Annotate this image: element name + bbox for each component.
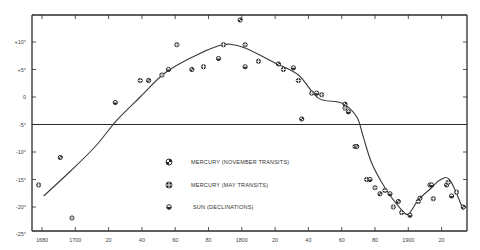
y-tick-label: -5° <box>19 122 26 128</box>
legend-label: MERCURY (NOVEMBER TRANSITS) <box>191 159 289 165</box>
data-point <box>113 100 117 104</box>
data-point <box>160 73 164 77</box>
data-point <box>221 43 225 47</box>
y-tick-label: -20° <box>16 204 26 210</box>
y-tick-label: -15° <box>16 177 26 183</box>
legend-marker-icon <box>166 182 172 188</box>
data-point <box>388 192 392 196</box>
legend: MERCURY (NOVEMBER TRANSITS)MERCURY (MAY … <box>166 159 289 210</box>
trend-curve <box>44 44 464 214</box>
data-point <box>256 59 260 63</box>
data-point <box>449 194 453 198</box>
x-tick-label: 80 <box>205 237 211 243</box>
data-point <box>296 78 300 82</box>
y-tick-label: 0 <box>23 94 26 100</box>
x-tick-label: 1900 <box>402 237 414 243</box>
legend-label: MERCURY (MAY TRANSITS) <box>191 182 268 188</box>
data-point <box>281 67 285 71</box>
declination-chart: +10°+5°0-5°-10°-15°-20°-25° 168017002040… <box>0 0 480 250</box>
x-tick-label: 1680 <box>36 237 48 243</box>
data-point <box>418 196 422 200</box>
data-point <box>446 180 450 184</box>
data-point <box>175 43 179 47</box>
data-point <box>146 78 150 82</box>
data-point <box>243 43 247 47</box>
data-point <box>70 216 74 220</box>
data-point <box>396 199 400 203</box>
x-tick-label: 1700 <box>69 237 81 243</box>
plot-frame <box>32 15 467 231</box>
data-point <box>291 66 295 70</box>
data-point <box>430 183 434 187</box>
data-point <box>201 65 205 69</box>
data-point <box>310 91 314 95</box>
data-point <box>276 62 280 66</box>
data-point <box>190 67 194 71</box>
y-tick-label: +5° <box>18 67 26 73</box>
data-point <box>400 210 404 214</box>
legend-marker-icon <box>167 205 172 210</box>
data-point <box>391 205 395 209</box>
data-point <box>383 188 387 192</box>
legend-marker-icon <box>166 159 172 165</box>
data-point <box>243 65 247 69</box>
legend-label: SUN (DECLINATIONS) <box>193 204 254 210</box>
y-tick-label: -25° <box>16 231 26 237</box>
data-point <box>58 155 62 159</box>
x-tick-label: 20 <box>106 237 112 243</box>
smoothed-curve <box>44 44 464 214</box>
data-point <box>238 18 242 22</box>
x-tick-label: 20 <box>439 237 445 243</box>
data-point <box>408 213 412 217</box>
x-tick-label: 20 <box>272 237 278 243</box>
marker-fill <box>169 159 172 162</box>
y-tick-label: -10° <box>16 149 26 155</box>
data-point <box>166 67 170 71</box>
data-point <box>373 186 377 190</box>
data-point <box>346 110 350 114</box>
x-tick-label: 40 <box>305 237 311 243</box>
data-point <box>315 91 319 95</box>
x-tick-label: 1800 <box>236 237 248 243</box>
data-point <box>378 192 382 196</box>
x-tick-label: 60 <box>172 237 178 243</box>
marker-fill <box>166 162 169 165</box>
data-points <box>37 18 466 220</box>
data-point <box>37 183 41 187</box>
data-point <box>368 177 372 181</box>
data-point <box>300 117 304 121</box>
x-tick-label: 60 <box>339 237 345 243</box>
data-point <box>216 56 220 60</box>
data-point <box>355 144 359 148</box>
data-point <box>461 205 465 209</box>
data-point <box>343 106 347 110</box>
x-tick-label: 80 <box>372 237 378 243</box>
x-tick-label: 40 <box>139 237 145 243</box>
data-point <box>454 190 458 194</box>
y-tick-label: +10° <box>14 39 26 45</box>
data-point <box>138 78 142 82</box>
data-point <box>431 197 435 201</box>
data-point <box>320 93 324 97</box>
